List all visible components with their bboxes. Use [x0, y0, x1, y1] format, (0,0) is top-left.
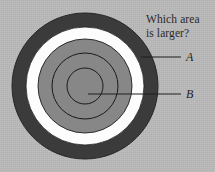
figure-canvas: Which area is larger? A B	[0, 0, 215, 172]
label-b: B	[186, 87, 193, 102]
question-line-2: is larger?	[146, 27, 215, 41]
question-line-1: Which area	[146, 13, 215, 27]
label-a: A	[186, 50, 193, 65]
question-text: Which area is larger?	[146, 13, 215, 40]
